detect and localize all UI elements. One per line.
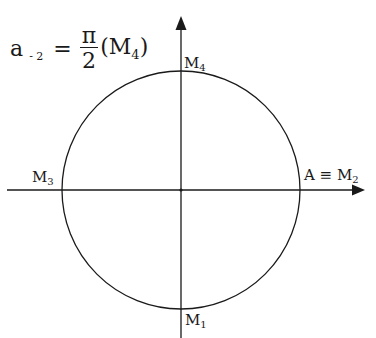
origin-point <box>179 188 182 191</box>
formula-equals: = <box>53 36 71 61</box>
y-axis-arrow-icon <box>176 16 187 30</box>
formula-lhs: a <box>10 36 23 61</box>
fraction-denominator: 2 <box>82 48 96 72</box>
label-m3: M3 <box>32 170 54 187</box>
label-a-m2: A ≡ M2 <box>304 168 359 185</box>
label-m1: M1 <box>185 313 207 330</box>
x-axis-arrow-icon <box>352 185 365 196</box>
fraction-numerator: π <box>80 24 98 48</box>
formula-point: (M4) <box>100 34 148 62</box>
formula-lhs-subscript: - 2 <box>29 50 43 63</box>
label-m4: M4 <box>184 56 206 73</box>
formula-fraction: π 2 <box>80 24 98 72</box>
formula: a - 2 = π 2 (M4) <box>10 24 148 72</box>
